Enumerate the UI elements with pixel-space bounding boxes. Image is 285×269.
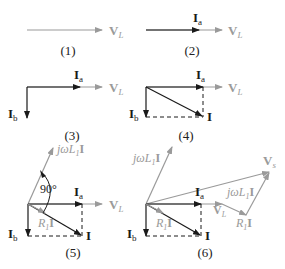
label-R1I: R1I bbox=[37, 216, 54, 232]
caption-4: (4) bbox=[178, 128, 193, 143]
vector-R1I bbox=[146, 204, 163, 213]
diagram-2: Ia VL (2) bbox=[146, 10, 242, 58]
label-jwL1I: jωL1I bbox=[55, 142, 84, 158]
diagram-6: jωL1I Vs Ia jωL1I VL R1I R1I Ib I (6) bbox=[127, 147, 276, 260]
label-Ia: Ia bbox=[74, 67, 83, 84]
label-angle: 90° bbox=[40, 182, 57, 196]
caption-1: (1) bbox=[60, 43, 75, 58]
label-jwL1I-tip: jωL1I bbox=[225, 185, 254, 201]
diagram-4: Ia VL Ib I (4) bbox=[129, 67, 242, 143]
label-Ia: Ia bbox=[74, 184, 83, 201]
label-R1I-tip: R1I bbox=[235, 216, 252, 232]
label-Ib: Ib bbox=[127, 226, 137, 243]
label-I: I bbox=[205, 228, 210, 243]
label-Ia: Ia bbox=[193, 10, 202, 27]
phasor-diagrams: VL (1) Ia VL (2) Ia VL Ib (3) Ia VL Ib I… bbox=[0, 0, 285, 269]
diagram-1: VL (1) bbox=[27, 23, 123, 58]
vector-R1I bbox=[28, 204, 45, 213]
label-Vs: Vs bbox=[263, 153, 276, 170]
caption-5: (5) bbox=[65, 245, 80, 260]
label-VL: VL bbox=[228, 80, 242, 97]
diagram-5: 90° jωL1I Ia VL R1I Ib I (5) bbox=[8, 142, 123, 260]
label-Ia: Ia bbox=[195, 184, 204, 201]
caption-6: (6) bbox=[197, 245, 212, 260]
label-I: I bbox=[207, 109, 212, 124]
vector-I bbox=[146, 87, 202, 116]
label-Ib: Ib bbox=[129, 106, 139, 123]
label-VL: VL bbox=[109, 80, 123, 97]
label-VL: VL bbox=[109, 23, 123, 40]
label-VL: VL bbox=[109, 197, 123, 214]
label-R1I: R1I bbox=[155, 216, 172, 232]
label-Ib: Ib bbox=[8, 226, 18, 243]
label-Ib: Ib bbox=[8, 106, 18, 123]
caption-3: (3) bbox=[64, 128, 79, 143]
label-I: I bbox=[86, 228, 91, 243]
caption-2: (2) bbox=[184, 43, 199, 58]
diagram-3: Ia VL Ib (3) bbox=[8, 67, 123, 143]
label-VL: VL bbox=[228, 23, 242, 40]
label-Ia: Ia bbox=[196, 67, 205, 84]
label-jwL1I-origin: jωL1I bbox=[131, 151, 160, 167]
